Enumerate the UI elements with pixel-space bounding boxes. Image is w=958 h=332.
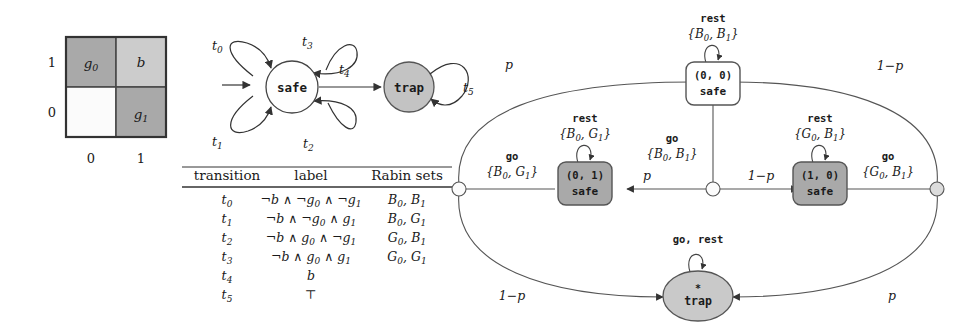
hub-circle-center	[706, 182, 720, 196]
action-sets-s01-go: {B0, G1}	[486, 165, 538, 181]
cell-transition: t3	[222, 249, 233, 266]
state-s10-line1: (1, 0)	[801, 169, 839, 181]
loop-label-s10-action: rest	[807, 112, 832, 124]
action-label-s00-go: go	[666, 132, 679, 144]
action-sets-s10-go: {G0, B1}	[862, 165, 914, 181]
cell-transition: t2	[222, 230, 233, 247]
cell-label: ¬b ∧ g0 ∧ g1	[271, 249, 351, 266]
table-row: t4 b	[222, 268, 315, 285]
state-trap-product-line2: trap	[684, 294, 712, 308]
hub-circle-right	[930, 182, 944, 196]
cell-transition: t5	[222, 287, 233, 304]
loop-label-trap-action: go, rest	[673, 233, 724, 245]
cell-transition: t1	[222, 211, 233, 228]
cell-label: b	[307, 268, 315, 283]
hub-circle-left	[452, 182, 466, 196]
ellipse-arc-bottom-right	[733, 192, 937, 297]
figure-root: g0 b g1 1 0 0 1 safe t4 trap t5 t0 t3 t1…	[0, 0, 958, 332]
grid-col-tick-0: 0	[87, 151, 95, 166]
state-s00-line1: (0, 0)	[694, 69, 732, 81]
self-loop-s00	[705, 45, 719, 63]
safe-loop-label-t1: t1	[212, 134, 223, 151]
table-header-rabin: Rabin sets	[371, 167, 443, 183]
grid-cell-0-0	[66, 87, 116, 137]
safe-loop-t2	[314, 101, 356, 129]
gridworld: g0 b g1 1 0 0 1	[48, 37, 166, 166]
transition-table: transition label Rabin sets t0 ¬b ∧ ¬g0 …	[182, 167, 452, 304]
table-row: t2 ¬b ∧ g0 ∧ ¬g1 G0, B1	[222, 230, 427, 247]
table-header-transition: transition	[194, 167, 261, 183]
grid-label-b: b	[137, 54, 146, 70]
table-header-label: label	[294, 167, 327, 183]
prob-go-right: 1−p	[748, 168, 774, 183]
state-s10-line2: safe	[807, 185, 834, 198]
ellipse-arc-bottom-left	[459, 192, 663, 297]
action-label-s10-go: go	[882, 150, 895, 162]
state-s01-line1: (0, 1)	[566, 169, 604, 181]
prob-trap-left: 1−p	[499, 288, 525, 303]
state-s01-line2: safe	[572, 185, 599, 198]
safe-loop-t0	[230, 41, 271, 76]
cell-label: ¬b ∧ g0 ∧ ¬g1	[266, 230, 357, 247]
cell-rabin: B0, B1	[387, 192, 426, 209]
loop-label-s01-action: rest	[572, 112, 597, 124]
self-loop-trap	[689, 254, 703, 272]
prob-s00-right: 1−p	[877, 58, 903, 73]
rabin-automaton: safe t4 trap t5 t0 t3 t1 t2	[212, 34, 474, 153]
safe-loop-label-t3: t3	[302, 34, 313, 51]
table-row: t5 ⊤	[222, 287, 317, 304]
loop-label-s00-sets: {B0, B1}	[687, 27, 738, 43]
cell-transition: t4	[222, 268, 233, 285]
prob-trap-right: p	[888, 288, 896, 303]
cell-transition: t0	[222, 192, 233, 209]
product-markov-chain: (0, 0) safe rest {B0, B1} (0, 1) safe re…	[452, 12, 944, 321]
loop-label-s10-sets: {G0, B1}	[794, 127, 846, 143]
state-s00-line2: safe	[700, 85, 727, 98]
safe-loop-label-t2: t2	[303, 136, 314, 153]
figure-svg: g0 b g1 1 0 0 1 safe t4 trap t5 t0 t3 t1…	[0, 0, 958, 332]
action-sets-s00-go: {B0, B1}	[646, 147, 697, 163]
prob-s00-left: p	[505, 57, 513, 72]
cell-rabin: G0, B1	[388, 230, 427, 247]
table-row: t3 ¬b ∧ g0 ∧ g1 G0, G1	[222, 249, 427, 266]
state-trap-label: trap	[394, 80, 424, 95]
safe-loop-t1	[231, 96, 271, 133]
state-trap-product-line1: *	[695, 283, 701, 294]
cell-label: ⊤	[305, 287, 317, 302]
cell-rabin: G0, G1	[387, 249, 426, 266]
loop-label-s01-sets: {B0, G1}	[559, 127, 611, 143]
edge-label-t4: t4	[339, 62, 350, 79]
grid-row-tick-1: 1	[48, 55, 56, 70]
cell-rabin: B0, G1	[387, 211, 427, 228]
cell-label: ¬b ∧ ¬g0 ∧ g1	[266, 211, 357, 228]
safe-loop-t3	[313, 45, 357, 74]
safe-loop-label-t0: t0	[212, 38, 223, 55]
loop-label-s00-action: rest	[700, 12, 725, 24]
self-loop-s01	[577, 145, 591, 163]
prob-go-left: p	[643, 168, 651, 183]
self-loop-s10	[812, 145, 826, 163]
table-row: t0 ¬b ∧ ¬g0 ∧ ¬g1 B0, B1	[222, 192, 426, 209]
grid-row-tick-0: 0	[48, 105, 56, 120]
state-safe-label: safe	[277, 80, 308, 95]
cell-label: ¬b ∧ ¬g0 ∧ ¬g1	[260, 192, 361, 209]
grid-col-tick-1: 1	[137, 151, 145, 166]
action-label-s01-go: go	[506, 150, 519, 162]
table-row: t1 ¬b ∧ ¬g0 ∧ g1 B0, G1	[222, 211, 427, 228]
